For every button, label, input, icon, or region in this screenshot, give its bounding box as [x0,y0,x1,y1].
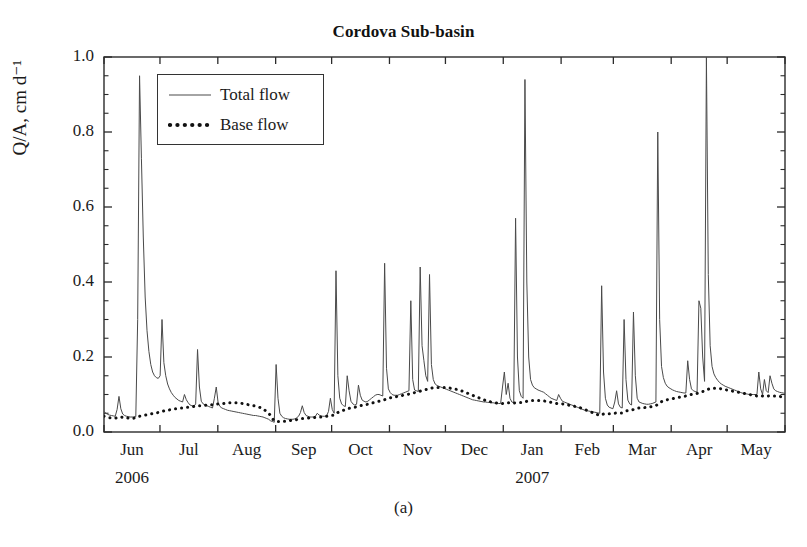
legend: Total flow Base flow [157,74,324,145]
legend-swatch-solid-line [167,85,213,105]
x-year-label: 2006 [87,468,177,488]
plot-canvas [0,0,807,547]
y-tick-label: 0.6 [48,196,94,216]
legend-label-base-flow: Base flow [220,115,288,135]
x-year-label: 2007 [487,468,577,488]
y-tick-label: 0.8 [48,121,94,141]
legend-item-total-flow: Total flow [158,80,323,110]
y-tick-label: 0.0 [48,421,94,441]
y-tick-label: 1.0 [48,46,94,66]
figure-panel-a: Cordova Sub-basin Q/A, cm d⁻¹ 0.00.20.40… [0,0,807,547]
x-tick-label: May [716,440,796,460]
y-tick-label: 0.4 [48,271,94,291]
legend-item-base-flow: Base flow [158,110,323,140]
panel-caption: (a) [0,498,807,518]
y-tick-label: 0.2 [48,346,94,366]
legend-swatch-dotted-line [167,115,213,135]
legend-label-total-flow: Total flow [220,85,290,105]
